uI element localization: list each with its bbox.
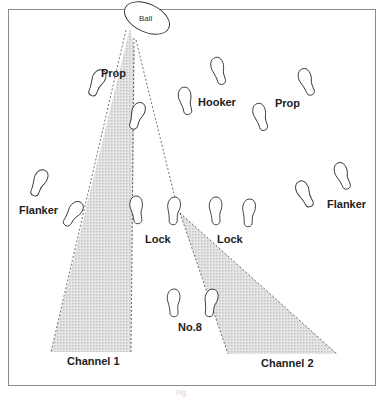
ball-label: Ball	[139, 14, 152, 23]
pass-line	[136, 40, 178, 210]
player-label-flanker-left: Flanker	[19, 204, 58, 216]
player-label-lock-right: Lock	[217, 233, 243, 245]
figure-caption: Fig.	[176, 389, 188, 396]
player-label-flanker-right: Flanker	[327, 198, 366, 210]
channel-2-label: Channel 2	[261, 357, 314, 369]
player-label-prop-right: Prop	[275, 97, 300, 109]
player-label-prop-left: Prop	[101, 67, 126, 79]
channel-2-area	[180, 213, 337, 354]
channel-1-label: Channel 1	[67, 355, 120, 367]
player-label-lock-left: Lock	[145, 233, 171, 245]
player-label-hooker: Hooker	[198, 96, 236, 108]
player-label-no8: No.8	[178, 321, 202, 333]
